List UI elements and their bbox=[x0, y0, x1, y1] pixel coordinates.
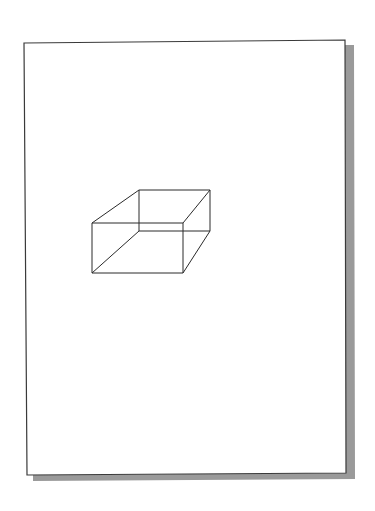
page bbox=[24, 40, 346, 475]
diagram-canvas bbox=[0, 0, 375, 511]
